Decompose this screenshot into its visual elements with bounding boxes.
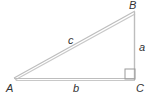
vertex-label-a: A [5, 82, 13, 94]
right-triangle-diagram: B c a A b C [0, 0, 148, 94]
side-label-b: b [73, 82, 79, 94]
side-label-a: a [139, 41, 145, 53]
vertex-label-b: B [129, 0, 136, 11]
right-angle-marker [125, 69, 135, 79]
side-label-c: c [68, 34, 74, 46]
side-b [14, 79, 135, 81]
vertex-label-c: C [136, 82, 144, 94]
side-c [14, 11, 135, 80]
